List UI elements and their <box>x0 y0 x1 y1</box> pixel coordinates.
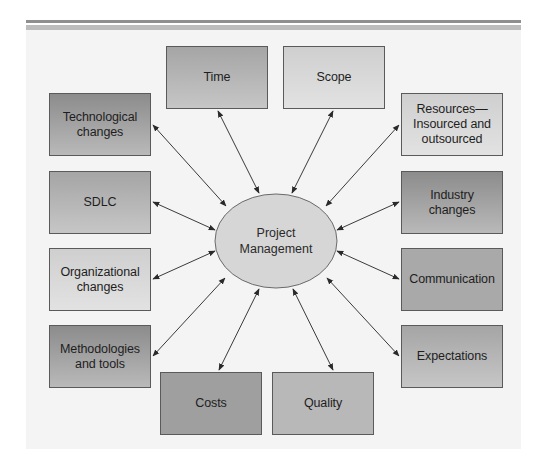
node-time-label: Time <box>202 70 233 85</box>
node-organizational-changes: Organizational changes <box>49 248 151 311</box>
node-scope: Scope <box>283 46 385 109</box>
node-costs-label: Costs <box>193 396 228 411</box>
hub-project-management: Project Management <box>215 193 337 288</box>
arrow-time <box>218 111 259 193</box>
arrow-sdlc <box>153 202 215 230</box>
node-technological-label-2: changes <box>61 125 139 140</box>
node-expectations: Expectations <box>401 325 503 388</box>
node-communication-label: Communication <box>407 272 497 287</box>
node-time: Time <box>166 46 268 109</box>
arrow-methodologies <box>153 278 225 356</box>
node-resources-label-1: Resources— <box>411 102 493 117</box>
arrow-costs <box>219 289 259 370</box>
node-industry-label-1: Industry <box>427 188 478 203</box>
node-methodologies-label-1: Methodologies <box>58 342 142 357</box>
node-resources: Resources— Insourced and outsourced <box>401 93 503 156</box>
node-quality: Quality <box>272 372 374 435</box>
node-quality-label: Quality <box>302 396 344 411</box>
node-methodologies-tools: Methodologies and tools <box>49 325 151 388</box>
node-expectations-label: Expectations <box>415 349 489 364</box>
node-sdlc: SDLC <box>49 171 151 234</box>
arrow-communication <box>337 251 399 279</box>
arrow-expectations <box>327 278 399 356</box>
arrow-quality <box>293 289 333 370</box>
arrow-organizational <box>153 251 215 279</box>
node-scope-label: Scope <box>315 70 354 85</box>
node-sdlc-label: SDLC <box>82 195 119 210</box>
node-organizational-label-1: Organizational <box>58 265 141 280</box>
hub-label-line1: Project <box>240 225 313 241</box>
node-technological-changes: Technological changes <box>49 93 151 156</box>
node-resources-label-3: outsourced <box>411 132 493 147</box>
node-industry-label-2: changes <box>427 203 478 218</box>
node-industry-changes: Industry changes <box>401 171 503 234</box>
node-methodologies-label-2: and tools <box>58 357 142 372</box>
node-resources-label-2: Insourced and <box>411 117 493 132</box>
arrow-industry <box>337 202 399 230</box>
arrow-scope <box>292 111 333 193</box>
hub-label-line2: Management <box>240 241 313 257</box>
node-technological-label-1: Technological <box>61 110 139 125</box>
node-communication: Communication <box>401 248 503 311</box>
node-costs: Costs <box>160 372 262 435</box>
node-organizational-label-2: changes <box>58 280 141 295</box>
